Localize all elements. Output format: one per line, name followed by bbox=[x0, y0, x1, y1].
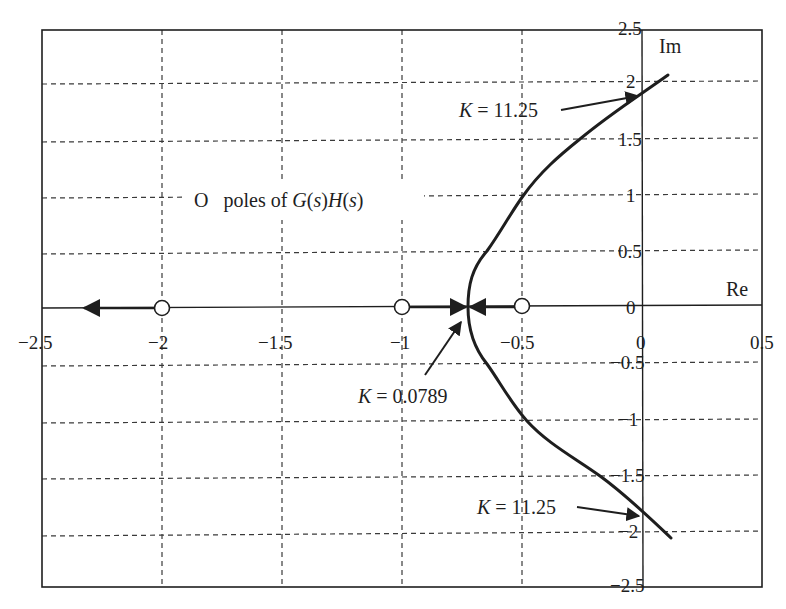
y-tick-p2_5: 2.5 bbox=[618, 19, 642, 38]
x-tick-m1: −1 bbox=[390, 333, 410, 352]
x-tick-m1_5: −1.5 bbox=[258, 333, 292, 352]
y-tick-m1: −1 bbox=[618, 410, 638, 429]
pole-marker-m1 bbox=[395, 300, 410, 315]
y-tick-zero: 0 bbox=[626, 298, 636, 317]
annotation-k-lower: K = 11.25 bbox=[477, 497, 556, 517]
y-tick-p2: 2 bbox=[626, 72, 636, 91]
legend: O poles of G(s)H(s) bbox=[194, 190, 364, 210]
x-tick-zero: 0 bbox=[636, 333, 646, 352]
annotation-arrow-k-breakaway bbox=[425, 322, 461, 375]
imag-axis bbox=[642, 30, 643, 587]
y-tick-m1_5: −1.5 bbox=[610, 466, 644, 485]
x-tick-m2_5: −2.5 bbox=[18, 333, 52, 352]
annotation-k-breakaway: K = 0.0789 bbox=[358, 386, 448, 406]
y-tick-p0_5: 0.5 bbox=[618, 242, 642, 261]
root-locus-plot bbox=[0, 0, 786, 609]
real-axis-label: Re bbox=[726, 279, 748, 299]
y-tick-m2_5: −2.5 bbox=[610, 576, 644, 595]
y-tick-m0_5: −0.5 bbox=[610, 353, 644, 372]
pole-marker-m0_5 bbox=[515, 299, 530, 314]
annotation-arrow-k-lower bbox=[577, 507, 639, 516]
x-tick-p0_5: 0.5 bbox=[750, 333, 774, 352]
x-tick-m2: −2 bbox=[148, 333, 168, 352]
legend-text: poles of bbox=[223, 189, 292, 211]
imag-axis-label: Im bbox=[659, 36, 681, 56]
legend-pole-symbol: O bbox=[194, 189, 208, 211]
annotation-k-upper: K = 11.25 bbox=[459, 100, 538, 120]
y-tick-p1_5: 1.5 bbox=[618, 130, 642, 149]
x-tick-m0_5: −0.5 bbox=[500, 333, 534, 352]
pole-marker-m2 bbox=[155, 301, 170, 316]
y-tick-m2: −2 bbox=[618, 522, 638, 541]
y-tick-p1: 1 bbox=[626, 186, 636, 205]
